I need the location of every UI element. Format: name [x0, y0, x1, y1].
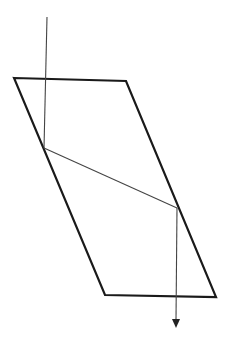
arrowhead-icon — [172, 319, 180, 328]
glass-block — [14, 78, 216, 297]
emergent-ray — [176, 208, 177, 320]
refraction-diagram — [0, 0, 230, 340]
incident-ray — [44, 17, 47, 148]
